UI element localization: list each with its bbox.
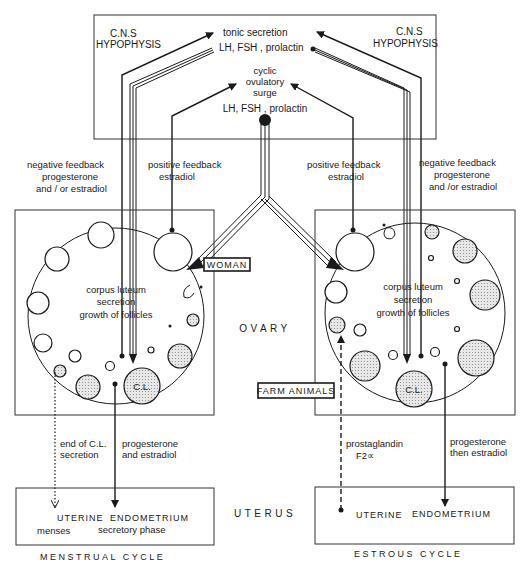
pos-feedback-left-line1: positive feedback (148, 159, 222, 170)
pos-feedback-left-line2: estradiol (159, 171, 195, 182)
cns-left-line1: C.N.S (110, 28, 137, 39)
pos-feedback-right-line1: positive feedback (307, 159, 381, 170)
right-hormone-line2: then estradiol (450, 447, 507, 458)
neg-feedback-right-dot (419, 354, 424, 359)
left-hormone-line1: progesterone (122, 438, 178, 449)
neg-feedback-left-line1: negative feedback (27, 159, 104, 170)
prostaglandin-line2: F2∝ (356, 450, 374, 461)
ovary-woman-center-line3: growth of follicles (80, 309, 153, 320)
prostaglandin-line1: prostaglandin (346, 438, 403, 449)
right-hormone-line1: progesterone (450, 436, 506, 447)
small-follicle (354, 324, 366, 336)
follicle-atretic (453, 239, 477, 263)
ruptured-follicle (184, 285, 194, 298)
follicle-atretic (425, 225, 439, 239)
small-follicle (429, 256, 434, 261)
surge-line3: surge (253, 87, 277, 98)
ovary-woman-center-line2: secretion (97, 296, 136, 307)
tonic-secretion-label: tonic secretion (223, 27, 287, 38)
ovary-farm-center-line2: secretion (394, 294, 433, 305)
cl-label-woman: C.L. (133, 381, 150, 392)
uterus-left-menses: menses (37, 525, 71, 536)
uterus-right-endometrium: ENDOMETRIUM (412, 509, 491, 519)
cns-right-line1: C.N.S (396, 26, 423, 37)
ovary-farm-center-line3: growth of follicles (377, 307, 450, 318)
pos-feedback-right-dot (351, 228, 356, 233)
follicle (27, 292, 49, 314)
cl-label-farm: C.L. (405, 384, 422, 395)
surge-hormones-label: LH, FSH , prolactin (223, 103, 307, 114)
cns-left-line2: HYPOPHYSIS (96, 39, 161, 50)
follicle-atretic (54, 365, 66, 377)
uterus-left-secretory: secretory phase (98, 524, 166, 535)
follicle-atretic (76, 375, 100, 399)
neg-feedback-right-line2: progesterone (434, 169, 490, 180)
follicle (325, 281, 347, 303)
preovulatory-follicle (336, 233, 374, 271)
ovary-woman-center-line1: corpus luteum (86, 284, 146, 295)
ruptured-follicle (384, 228, 395, 239)
follicle-atretic (458, 340, 494, 376)
surge-line2: ovulatory (246, 76, 285, 87)
uterus-left-uterine: UTERINE (57, 513, 104, 523)
prostaglandin-origin-dot (339, 508, 344, 513)
cns-right-line2: HYPOPHYSIS (373, 38, 438, 49)
left-hormone-line2: and estradiol (122, 449, 176, 460)
ovary-farm-center-line1: corpus luteum (383, 281, 443, 292)
follicle (34, 334, 52, 352)
neg-feedback-left-line2: progesterone (42, 171, 98, 182)
farm-animals-tag: FARM ANIMALS (257, 386, 336, 396)
small-follicle (455, 279, 460, 284)
small-follicle (69, 350, 81, 362)
follicle (88, 222, 114, 248)
follicle-atretic (329, 317, 345, 333)
neg-feedback-left-line3: and / or estradiol (36, 183, 107, 194)
small-follicle (106, 362, 115, 371)
neg-feedback-left-dot (120, 354, 125, 359)
follicle-atretic (187, 314, 199, 326)
small-follicle (455, 327, 460, 332)
small-follicle (148, 347, 154, 353)
small-follicle (431, 348, 440, 357)
follicle-atretic (350, 351, 380, 381)
pos-feedback-left-dot (170, 228, 175, 233)
uterus-label: UTERUS (234, 508, 296, 519)
pos-feedback-right-line2: estradiol (328, 171, 364, 182)
surge-line1: cyclic (253, 65, 276, 76)
follicle-atretic (470, 280, 500, 310)
neg-feedback-right-line3: and /or estradiol (429, 181, 497, 192)
woman-tag: WOMAN (207, 260, 248, 270)
surge-triple-arrow-right (261, 196, 344, 270)
neg-feedback-right-line1: negative feedback (419, 157, 496, 168)
tonic-hormones-label: LH, FSH , prolactin (219, 42, 303, 53)
small-follicle (389, 351, 398, 360)
estrous-cycle-label: ESTROUS CYCLE (354, 549, 463, 559)
follicle (45, 247, 69, 271)
end-cl-line1: end of C.L. (60, 438, 106, 449)
ovary-label: OVARY (239, 323, 291, 334)
follicle-atretic (168, 344, 192, 368)
preovulatory-follicle (154, 233, 192, 271)
uterus-right-uterine: UTERINE (356, 510, 403, 520)
uterus-left-endometrium: ENDOMETRIUM (110, 513, 189, 523)
menstrual-cycle-label: MENSTRUAL CYCLE (40, 552, 165, 562)
surge-triple-arrow-left (186, 124, 269, 270)
reproductive-cycle-diagram: C.N.S HYPOPHYSIS C.N.S HYPOPHYSIS tonic … (0, 0, 530, 576)
end-cl-line2: secretion (60, 449, 99, 460)
